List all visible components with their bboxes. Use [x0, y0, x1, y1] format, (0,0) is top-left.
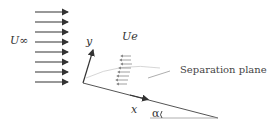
profile-arrows — [116, 56, 132, 84]
angle-label: α — [152, 107, 159, 120]
plate — [83, 83, 218, 118]
angle-arc — [161, 111, 163, 118]
freestream-label: U∞ — [10, 34, 28, 47]
separation-pointer — [148, 71, 170, 78]
y-axis-label: y — [86, 35, 92, 48]
y-axis — [83, 50, 93, 83]
diagram: U∞ Ue y x α Separation plane — [0, 0, 268, 124]
x-axis-arrow — [130, 95, 148, 100]
x-axis-label: x — [131, 103, 137, 116]
edge-velocity-label: Ue — [122, 30, 138, 43]
freestream-arrows — [35, 12, 68, 82]
separation-plane-label: Separation plane — [180, 64, 267, 75]
